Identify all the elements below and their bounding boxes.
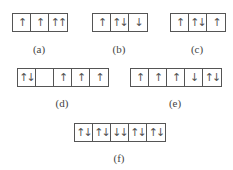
orbital-cell: ↑↑ — [49, 14, 67, 31]
orbital-cell: ↑ — [90, 69, 108, 86]
orbital-cell: ↓↓ — [111, 124, 129, 141]
orbital-cell — [36, 69, 54, 86]
diagram-label-e: (e) — [155, 97, 195, 109]
diagram-label-b: (b) — [99, 43, 139, 55]
orbital-boxes: ↑↓ ↑ ↑ ↑ — [17, 68, 109, 87]
diagram-label-c: (c) — [177, 43, 217, 55]
orbital-cell: ↑ — [13, 14, 31, 31]
orbital-cell: ↑ — [31, 14, 49, 31]
orbital-cell: ↑↓ — [203, 69, 221, 86]
orbital-cell: ↑↓ — [189, 14, 207, 31]
orbital-cell: ↑↓ — [93, 124, 111, 141]
orbital-cell: ↑ — [149, 69, 167, 86]
orbital-cell: ↑ — [93, 14, 111, 31]
orbital-diagram-f: ↑↓ ↑↓ ↓↓ ↑↓ ↑↓ — [74, 123, 166, 142]
orbital-diagram-b: ↑ ↑↓ ↓ — [92, 13, 148, 32]
orbital-diagram-d: ↑↓ ↑ ↑ ↑ — [17, 68, 109, 87]
orbital-cell: ↑ — [207, 14, 225, 31]
orbital-cell: ↓ — [129, 14, 147, 31]
orbital-cell: ↓ — [185, 69, 203, 86]
orbital-cell: ↑↓ — [147, 124, 165, 141]
orbital-diagram-c: ↑ ↑↓ ↑ — [170, 13, 226, 32]
orbital-boxes: ↑ ↑↓ ↓ — [92, 13, 148, 32]
diagram-label-f: (f) — [99, 152, 139, 164]
orbital-cell: ↑ — [171, 14, 189, 31]
orbital-cell: ↑ — [167, 69, 185, 86]
orbital-boxes: ↑ ↑↓ ↑ — [170, 13, 226, 32]
orbital-cell: ↑↓ — [18, 69, 36, 86]
orbital-diagram-e: ↑ ↑ ↑ ↓ ↑↓ — [130, 68, 222, 87]
orbital-boxes: ↑ ↑ ↑↑ — [12, 13, 68, 32]
diagram-label-a: (a) — [19, 43, 59, 55]
orbital-cell: ↑ — [54, 69, 72, 86]
diagram-label-d: (d) — [42, 97, 82, 109]
orbital-boxes: ↑ ↑ ↑ ↓ ↑↓ — [130, 68, 222, 87]
orbital-boxes: ↑↓ ↑↓ ↓↓ ↑↓ ↑↓ — [74, 123, 166, 142]
orbital-diagram-a: ↑ ↑ ↑↑ — [12, 13, 68, 32]
orbital-cell: ↑↓ — [111, 14, 129, 31]
orbital-cell: ↑↓ — [75, 124, 93, 141]
orbital-cell: ↑ — [72, 69, 90, 86]
orbital-cell: ↑↓ — [129, 124, 147, 141]
orbital-cell: ↑ — [131, 69, 149, 86]
